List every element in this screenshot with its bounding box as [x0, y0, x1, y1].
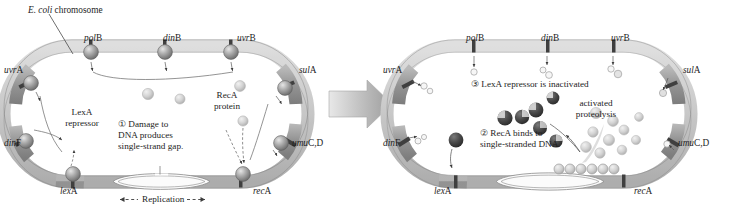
gene-label-dinB-left: dinB — [163, 33, 181, 44]
gene-label-umuCD-right: umuC,D — [678, 138, 709, 149]
right-panel-induced — [387, 40, 691, 190]
recA-filament-on-ssdna — [554, 164, 619, 174]
replication-label: Replication — [142, 194, 184, 205]
replication-bubble-right — [496, 173, 604, 190]
gene-label-lexA-right: lexA — [434, 186, 452, 197]
gene-label-dinB-right: dinB — [541, 33, 559, 44]
intact-lexa-repressor-right — [449, 133, 464, 148]
gene-label-polB-left: polB — [84, 33, 102, 44]
gene-label-dinF-left: dinF — [4, 138, 21, 149]
chromosome-ring-left — [4, 40, 308, 188]
annotation-lexa-repressor: LexA repressor — [54, 107, 110, 129]
sos-response-diagram: E. coli chromosome polB dinB uvrB uvrA d… — [0, 0, 729, 213]
gene-label-uvrA-left: uvrA — [4, 65, 23, 76]
replication-bubble-left — [113, 166, 210, 189]
gene-label-uvrB-right: uvrB — [611, 33, 630, 44]
chromosome-callout-italic: E. coli — [28, 5, 52, 15]
annotation-reca-protein: RecA protein — [203, 90, 251, 112]
annotation-step-1: ① Damage to DNA produces single-strand g… — [118, 119, 210, 151]
gene-label-lexA-left: lexA — [60, 186, 78, 197]
gene-label-uvrA-right: uvrA — [383, 65, 402, 76]
gene-label-recA-right: recA — [634, 186, 652, 197]
gene-label-sulA-right: sulA — [683, 65, 701, 76]
chromosome-callout: E. coli chromosome — [28, 5, 103, 16]
gene-label-sulA-left: sulA — [299, 65, 317, 76]
annotation-step-3: ③ LexA repressor is inactivated — [471, 79, 589, 90]
annotation-step-2: ② RecA binds to single-stranded DNA. — [480, 128, 561, 150]
gene-label-uvrB-left: uvrB — [237, 33, 256, 44]
chromosome-callout-rest: chromosome — [52, 5, 102, 15]
recA-recruit-arrows-left — [226, 128, 244, 164]
gene-label-dinF-right: dinF — [383, 138, 400, 149]
gene-label-umuCD-left: umuC,D — [292, 138, 323, 149]
left-panel-uninduced — [4, 14, 308, 202]
gene-label-polB-right: polB — [466, 33, 484, 44]
annotation-activated-proteolysis: activated proteolysis — [570, 98, 622, 120]
gene-label-recA-left: recA — [253, 186, 271, 197]
